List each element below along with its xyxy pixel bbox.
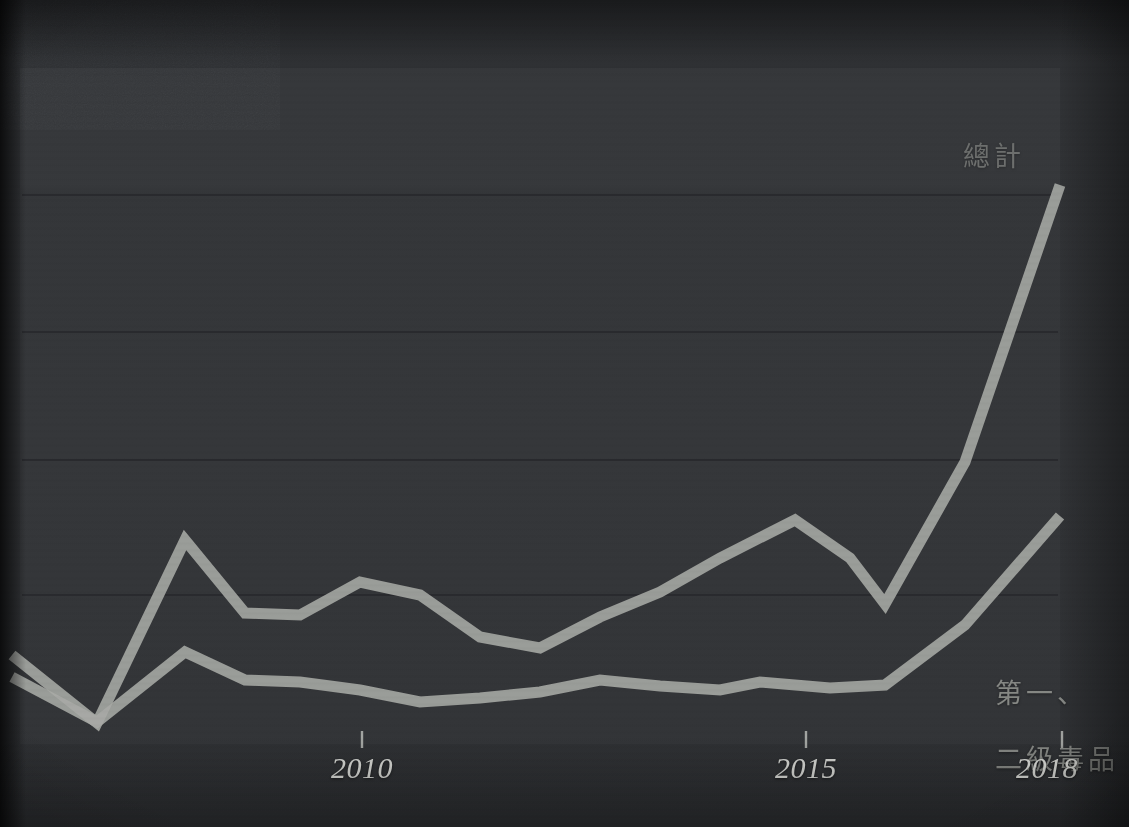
series-label-total: 總計 <box>963 141 1025 174</box>
series-label-grade12-line1: 第一、 <box>995 678 1088 709</box>
x-tick-label-2015: 2015 <box>775 751 837 785</box>
chart-canvas: 總計 第一、 二級毒品 2010 2015 2018 <box>0 0 1129 827</box>
series-line-grade12 <box>12 516 1060 722</box>
series-group <box>12 185 1060 723</box>
gridlines <box>22 195 1058 595</box>
x-tick-label-2018: 2018 <box>1016 751 1078 785</box>
series-line-total <box>12 185 1060 723</box>
x-tick-label-2010: 2010 <box>331 751 393 785</box>
